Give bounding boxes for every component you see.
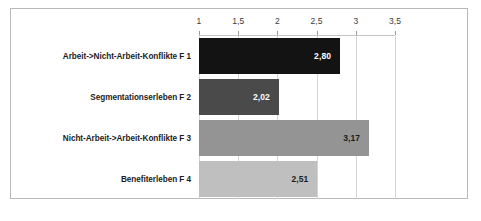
- bar-row[interactable]: Segmentationserleben F 22,02: [199, 79, 395, 115]
- x-axis-tick-label: 1,5: [232, 16, 244, 26]
- x-axis-tick-label: 2,5: [311, 16, 323, 26]
- gridline: [395, 36, 396, 199]
- category-label: Segmentationserleben F 2: [90, 93, 191, 102]
- x-axis-tick-mark: [395, 31, 396, 35]
- bar-value-label: 3,17: [343, 133, 360, 143]
- x-axis-tick-label: 2: [275, 16, 280, 26]
- category-label: Benefiterleben F 4: [121, 174, 191, 183]
- category-label: Nicht-Arbeit->Arbeit-Konflikte F 3: [63, 133, 191, 142]
- bar-value-label: 2,02: [253, 92, 270, 102]
- bar-chart: 11,522,533,5 Arbeit->Nicht-Arbeit-Konfli…: [0, 0, 481, 221]
- plot-area: Arbeit->Nicht-Arbeit-Konflikte F 12,80Se…: [199, 36, 395, 199]
- x-axis-tick-label: 3,5: [389, 16, 401, 26]
- bar-row[interactable]: Benefiterleben F 42,51: [199, 161, 395, 197]
- x-axis-tick-labels: 11,522,533,5: [199, 16, 395, 29]
- category-label: Arbeit->Nicht-Arbeit-Konflikte F 1: [63, 52, 191, 61]
- bar-row[interactable]: Nicht-Arbeit->Arbeit-Konflikte F 33,17: [199, 120, 395, 156]
- x-axis-tick-label: 1: [197, 16, 202, 26]
- bar-value-label: 2,51: [291, 174, 308, 184]
- bar-row[interactable]: Arbeit->Nicht-Arbeit-Konflikte F 12,80: [199, 38, 395, 74]
- x-axis-tick-label: 3: [353, 16, 358, 26]
- bar-value-label: 2,80: [314, 51, 331, 61]
